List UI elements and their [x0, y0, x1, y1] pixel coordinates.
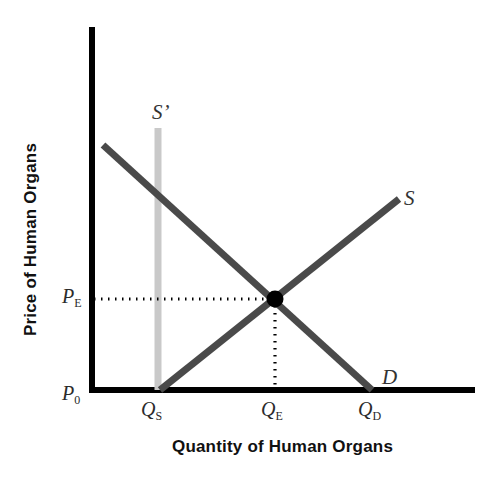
y-tick-p0-base: P	[62, 382, 74, 404]
supply-curve-label: S	[404, 186, 415, 211]
restricted-supply-label: S’	[152, 100, 170, 125]
y-tick-pe-base: P	[62, 285, 74, 307]
x-tick-label-qd: QD	[358, 398, 381, 421]
x-tick-qd-base: Q	[358, 398, 372, 420]
y-tick-pe-sub: E	[74, 296, 81, 310]
equilibrium-point	[267, 291, 284, 308]
y-tick-p0-sub: 0	[74, 393, 80, 407]
demand-curve-label: D	[382, 365, 397, 390]
x-tick-qs-base: Q	[141, 398, 155, 420]
x-tick-label-qs: QS	[141, 398, 162, 421]
x-tick-qe-sub: E	[275, 409, 282, 423]
supply-demand-figure: Price of Human Organs Quantity of Human …	[0, 0, 499, 479]
x-tick-label-qe: QE	[261, 398, 283, 421]
y-tick-label-p0: P0	[62, 382, 80, 405]
x-tick-qd-sub: D	[372, 409, 381, 423]
plot-canvas	[0, 0, 499, 479]
y-axis-title: Price of Human Organs	[16, 0, 46, 479]
x-tick-qe-base: Q	[261, 398, 275, 420]
x-tick-qs-sub: S	[155, 409, 162, 423]
x-axis-title: Quantity of Human Organs	[90, 437, 475, 457]
demand-curve	[103, 145, 372, 390]
y-tick-label-pe: PE	[62, 285, 82, 308]
